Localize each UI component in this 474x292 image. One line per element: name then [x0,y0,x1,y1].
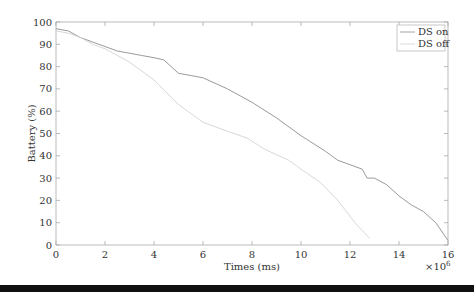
legend-label-ds-on: DS on [418,26,449,37]
x-tick-label: 16 [442,249,455,260]
y-tick-label: 60 [39,106,52,117]
x-multiplier: ×106 [425,260,451,272]
y-tick-label: 20 [39,195,52,206]
y-axis: 0102030405060708090100 [33,17,448,251]
legend-label-ds-off: DS off [418,38,450,49]
x-tick-label: 4 [151,249,157,260]
y-tick-label: 10 [39,217,52,228]
bottom-border-bar [0,285,474,292]
legend: DS on DS off [397,25,450,51]
y-tick-label: 70 [39,83,52,94]
x-tick-label: 14 [393,249,406,260]
series-line-ds-on [56,29,448,241]
x-tick-label: 0 [53,249,59,260]
y-tick-label: 0 [46,240,52,251]
x-tick-label: 10 [295,249,308,260]
y-tick-label: 30 [39,173,52,184]
battery-chart: 0102030405060708090100 0246810121416 Bat… [0,0,474,292]
x-tick-label: 12 [344,249,357,260]
x-tick-label: 8 [249,249,255,260]
series-lines [56,29,448,241]
x-tick-label: 2 [102,249,108,260]
x-axis: 0246810121416 [53,22,455,260]
x-tick-label: 6 [200,249,206,260]
y-tick-label: 50 [39,128,52,139]
plot-area [56,22,448,245]
y-tick-label: 40 [39,150,52,161]
y-tick-label: 100 [33,17,52,28]
y-axis-label: Battery (%) [26,104,37,162]
y-tick-label: 80 [39,61,52,72]
y-tick-label: 90 [39,39,52,50]
series-line-ds-off [56,31,370,238]
x-axis-label: Times (ms) [224,261,280,272]
